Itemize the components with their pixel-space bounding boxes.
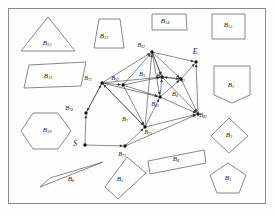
obstacle-label-b5: B5 — [117, 176, 123, 183]
node-label-b73: B73 — [118, 151, 126, 159]
obstacle-label-b3: B3 — [225, 175, 231, 182]
graph-node-b83 — [158, 95, 161, 98]
node-label-b72: B72 — [144, 129, 152, 137]
region-label-b7: B7 — [122, 116, 128, 124]
end-node — [194, 60, 197, 63]
end-label: E — [193, 48, 198, 56]
obstacle-label-b1: B1 — [228, 82, 234, 89]
node-label-b71: B71 — [84, 75, 92, 83]
node-label-b92: B92 — [137, 42, 145, 50]
node-label-b91: B91 — [156, 73, 164, 81]
graph-node-b73 — [123, 144, 126, 147]
obstacle-label-b15: B15 — [224, 22, 233, 29]
start-node — [83, 143, 86, 146]
obstacle-label-b11: B11 — [44, 73, 52, 80]
region-label-b9: B9 — [139, 71, 145, 79]
obstacle-label-b4: B4 — [173, 156, 179, 163]
graph-node-b74 — [84, 111, 87, 114]
region-label-b8: B8 — [172, 91, 178, 99]
obstacle-label-b14: B14 — [161, 18, 170, 25]
obstacle-b11 — [24, 62, 86, 88]
obstacle-b13 — [94, 19, 124, 48]
graph-node-b92 — [150, 50, 153, 53]
obstacle-label-b12: B12 — [43, 40, 52, 47]
graph-node-b93 — [121, 83, 124, 86]
visibility-graph-canvas — [0, 0, 274, 215]
obstacle-label-b13: B13 — [100, 33, 109, 40]
graph-node-b71 — [100, 81, 103, 84]
node-label-b82: B82 — [177, 76, 185, 84]
obstacle-label-b10: B10 — [43, 127, 52, 134]
obstacle-label-b2: B2 — [226, 132, 232, 139]
node-label-b81: B81 — [199, 112, 207, 120]
start-label: S — [73, 140, 77, 148]
node-label-b74: B74 — [65, 105, 73, 113]
obstacle-label-b6: B6 — [68, 176, 74, 183]
node-label-b93: B93 — [111, 75, 119, 83]
node-label-b83: B83 — [151, 101, 159, 109]
figure-container: B1B2B3B4B5B6B10B11B12B13B14B15B71B72B73B… — [0, 0, 274, 215]
